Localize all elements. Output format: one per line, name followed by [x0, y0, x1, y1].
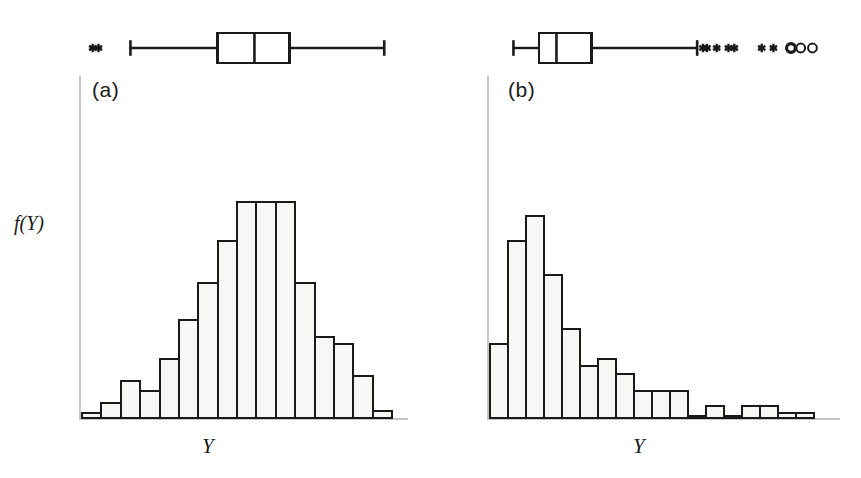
histogram-bar	[276, 202, 295, 418]
histogram-bar	[778, 413, 796, 418]
histogram-bar	[121, 381, 140, 418]
histogram-bar	[742, 406, 760, 418]
histogram-bar	[237, 202, 256, 418]
histogram-bar	[179, 320, 198, 418]
histogram-bar	[706, 406, 724, 418]
panel-a: (a) f(Y) Y	[0, 0, 440, 478]
histogram-bar	[598, 359, 616, 418]
histogram-bar	[160, 359, 179, 418]
histogram-bar	[796, 413, 814, 418]
panel-a-boxplot	[89, 33, 384, 63]
histogram-bar	[724, 416, 742, 418]
histogram-bar	[140, 391, 159, 418]
histogram-bar	[760, 406, 778, 418]
outlier-asterisk	[713, 44, 720, 52]
histogram-bar	[256, 202, 275, 418]
histogram-bar	[688, 416, 706, 418]
outlier-asterisk	[89, 44, 96, 52]
outlier-circle	[796, 44, 805, 53]
histogram-bar	[634, 391, 652, 418]
histogram-bar	[526, 216, 544, 418]
outlier-asterisk	[95, 44, 102, 52]
histogram-bar	[315, 337, 334, 418]
histogram-bar	[580, 366, 598, 418]
outlier-circle	[808, 44, 817, 53]
histogram-bar	[490, 344, 508, 418]
outlier-asterisk	[770, 44, 777, 52]
outlier-asterisk	[758, 44, 765, 52]
panel-b-boxplot	[513, 33, 816, 63]
histogram-bar	[334, 344, 353, 418]
histogram-bar	[295, 283, 314, 418]
figure-two-distributions: (a) f(Y) Y (b) Y	[0, 0, 861, 478]
outlier-asterisk	[725, 44, 732, 52]
histogram-bar	[101, 403, 120, 418]
panel-b: (b) Y	[440, 0, 861, 478]
boxplot-box	[539, 33, 592, 63]
histogram-bar	[508, 241, 526, 418]
panel-b-bars	[490, 216, 814, 418]
histogram-bar	[616, 374, 634, 418]
panel-b-plot	[440, 0, 861, 478]
histogram-bar	[670, 391, 688, 418]
histogram-bar	[82, 413, 101, 418]
histogram-bar	[562, 329, 580, 418]
panel-a-plot	[0, 0, 440, 478]
histogram-bar	[544, 275, 562, 418]
histogram-bar	[652, 391, 670, 418]
outlier-circle	[787, 44, 796, 53]
panel-a-bars	[82, 202, 392, 418]
histogram-bar	[218, 241, 237, 418]
histogram-bar	[373, 411, 392, 418]
histogram-bar	[353, 376, 372, 418]
histogram-bar	[198, 283, 217, 418]
outlier-asterisk	[731, 44, 738, 52]
